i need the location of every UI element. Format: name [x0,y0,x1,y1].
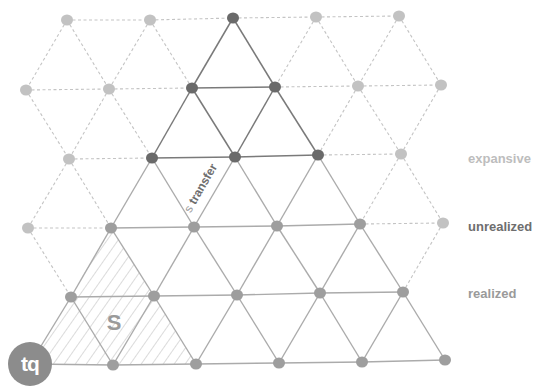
edge [235,87,275,157]
edge [275,86,358,87]
edge [277,224,360,226]
edge [277,155,318,226]
node-realized [314,288,326,299]
node-realized [231,290,243,301]
edge [237,293,320,295]
edge [360,154,401,224]
node-realized [190,359,202,370]
edge [192,88,235,157]
edge [358,16,399,86]
node-realized [354,219,366,230]
node-expansive [437,218,449,229]
node-expansive [63,154,75,165]
edge [28,228,71,297]
edge [362,292,403,362]
node-unrealized [186,83,198,94]
edge [320,292,403,293]
node-realized [65,292,77,303]
edge [26,90,69,159]
edge [26,20,67,90]
edge [69,158,152,159]
region-label-s: S [107,310,122,335]
node-realized [397,287,409,298]
edge [28,159,69,228]
edge [152,157,235,158]
node-expansive [352,81,364,92]
edge [235,155,318,157]
edge [360,224,403,292]
edge [69,159,111,228]
edge [192,87,275,88]
edge [233,18,275,87]
node-expansive [310,12,322,23]
edge [71,296,154,297]
edge [196,363,279,364]
legend-expansive: expansive [468,151,531,166]
edge [67,20,109,89]
triangular-lattice-diagram: S s transfer [0,0,544,388]
edge [150,18,233,20]
edge [318,86,358,155]
node-realized [188,222,200,233]
edge [358,85,441,86]
transfer-label: s transfer [181,161,220,215]
edge [318,155,360,224]
edge [109,89,152,158]
edge [111,227,194,228]
edge [360,223,443,224]
edge [401,85,441,154]
edge [275,17,316,87]
edge [154,295,237,296]
edge [320,224,360,293]
edge [401,154,443,223]
edge [113,364,196,365]
edge [237,295,279,363]
edge [69,89,109,159]
node-unrealized [146,153,158,164]
edge [192,18,233,88]
legend-realized: realized [468,286,516,301]
edge [109,88,192,89]
edge [237,226,277,295]
edge [358,86,401,154]
edge [318,154,401,155]
edge [399,16,441,85]
legend-unrealized: unrealized [468,219,532,234]
edge [109,20,150,89]
edge [403,292,445,360]
node-expansive [103,84,115,95]
edge [152,88,192,158]
edge [316,17,358,86]
node-realized [273,358,285,369]
edge [320,293,362,362]
edge [279,293,320,363]
node-expansive [144,15,156,26]
node-realized [105,223,117,234]
node-unrealized [227,13,239,24]
edge [235,157,277,226]
edge [275,87,318,155]
edge [196,295,237,364]
node-expansive [61,15,73,26]
node-unrealized [229,152,241,163]
edge [403,223,443,292]
node-realized [356,357,368,368]
node-realized [271,221,283,232]
node-expansive [20,85,32,96]
node-realized [439,355,451,366]
node-unrealized [312,150,324,161]
edge [194,227,237,295]
node-expansive [22,223,34,234]
edge [362,360,445,362]
node-expansive [435,80,447,91]
edge [150,20,192,88]
node-unrealized [269,82,281,93]
node-expansive [395,149,407,160]
edge [277,226,320,293]
edge [233,17,316,18]
tq-logo-badge: tq [8,342,52,386]
edge [154,227,194,296]
edge [26,89,109,90]
edge [111,158,152,228]
edge [316,16,399,17]
